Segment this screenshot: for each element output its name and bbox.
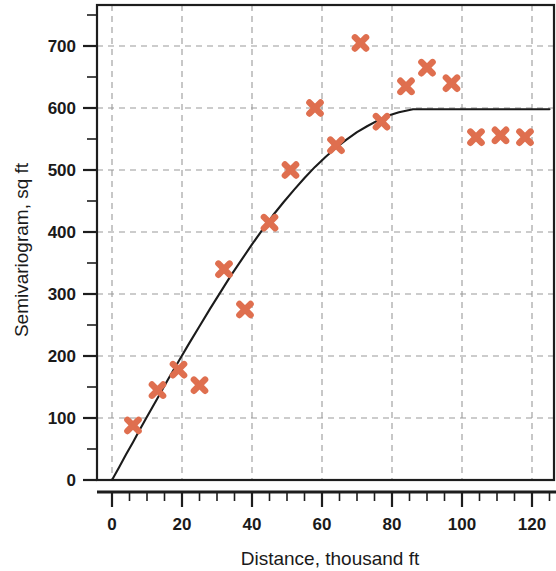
data-point-marker xyxy=(239,304,250,315)
data-point-marker xyxy=(173,364,184,375)
data-point-marker xyxy=(127,420,138,431)
x-axis-tick-label: 100 xyxy=(448,515,476,534)
x-axis-tick-label: 40 xyxy=(243,515,262,534)
y-axis-tick-label: 600 xyxy=(48,99,76,118)
data-point-marker xyxy=(495,130,506,141)
data-point-marker xyxy=(218,264,229,275)
x-axis-tick-label: 0 xyxy=(107,515,116,534)
data-point-marker xyxy=(446,78,457,89)
x-axis-tick-label: 120 xyxy=(518,515,546,534)
data-point-marker xyxy=(152,385,163,396)
data-point-marker xyxy=(285,164,296,175)
y-axis-tick-label: 0 xyxy=(67,471,76,490)
data-point-marker xyxy=(264,217,275,228)
y-axis-tick-label: 100 xyxy=(48,409,76,428)
x-axis-title: Distance, thousand ft xyxy=(241,548,420,569)
data-point-marker xyxy=(330,140,341,151)
x-axis-tick-label: 20 xyxy=(173,515,192,534)
x-axis-tick-label: 60 xyxy=(313,515,332,534)
x-axis-tick-label: 80 xyxy=(383,515,402,534)
data-point-marker xyxy=(519,132,530,143)
y-axis-title: Semivariogram, sq ft xyxy=(11,162,32,337)
data-point-marker xyxy=(309,102,320,113)
y-axis-tick-label: 700 xyxy=(48,37,76,56)
y-axis-tick-label: 200 xyxy=(48,347,76,366)
chart-figure: 0100200300400500600700 020406080100120 S… xyxy=(0,0,556,571)
y-axis-tick-label: 400 xyxy=(48,223,76,242)
data-point-marker xyxy=(400,81,411,92)
data-point-marker xyxy=(470,132,481,143)
data-point-marker xyxy=(194,380,205,391)
data-point-marker xyxy=(355,37,366,48)
y-axis-tick-label: 500 xyxy=(48,161,76,180)
data-point-marker xyxy=(421,62,432,73)
semivariogram-chart: 0100200300400500600700 020406080100120 S… xyxy=(0,0,556,571)
plot-background xyxy=(0,0,556,571)
y-axis-tick-label: 300 xyxy=(48,285,76,304)
data-point-marker xyxy=(376,116,387,127)
